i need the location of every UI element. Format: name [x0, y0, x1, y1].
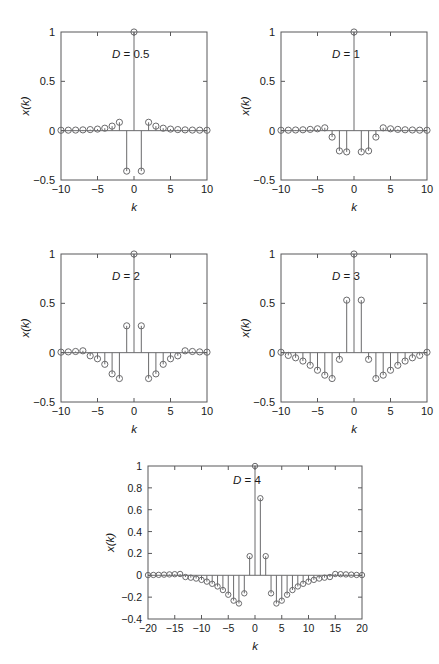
- panel-d05: −10−50510−0.500.51kx(k)D = 0.5: [0, 6, 219, 218]
- y-axis-title: x(k): [104, 533, 116, 553]
- plot-d1: −10−50510−0.500.51kx(k)D = 1: [220, 6, 439, 218]
- figure-root: −10−50510−0.500.51kx(k)D = 0.5 −10−50510…: [0, 0, 439, 664]
- y-tick-label: −0.5: [33, 174, 55, 186]
- x-tick-label: 10: [201, 183, 213, 195]
- x-axis-title: k: [131, 423, 138, 435]
- y-tick-label: 0: [136, 569, 142, 581]
- x-tick-label: 5: [387, 183, 393, 195]
- data-point-marker: [402, 127, 408, 133]
- x-tick-label: 10: [421, 183, 433, 195]
- y-tick-label: 0: [49, 125, 55, 137]
- plot-d2: −10−50510−0.500.51kx(k)D = 2: [0, 228, 219, 440]
- x-tick-label: 5: [167, 183, 173, 195]
- plot-annotation: D = 3: [332, 270, 360, 282]
- panel-d3: −10−50510−0.500.51kx(k)D = 3: [220, 228, 439, 440]
- plot-d3: −10−50510−0.500.51kx(k)D = 3: [220, 228, 439, 440]
- data-point-marker: [175, 126, 181, 132]
- plot-annotation: D = 2: [112, 270, 140, 282]
- y-tick-label: −0.5: [253, 174, 275, 186]
- y-tick-label: 1: [49, 248, 55, 260]
- y-axis-title: x(k): [19, 96, 31, 116]
- y-tick-label: 0.5: [260, 297, 275, 309]
- y-axis-title: x(k): [19, 318, 31, 338]
- x-tick-label: 5: [167, 405, 173, 417]
- x-tick-label: 5: [387, 405, 393, 417]
- x-tick-label: 10: [421, 405, 433, 417]
- x-tick-label: 0: [252, 622, 258, 634]
- y-tick-label: 1: [49, 26, 55, 38]
- y-tick-label: 1: [269, 26, 275, 38]
- x-tick-label: 0: [131, 405, 137, 417]
- x-tick-label: −5: [311, 405, 324, 417]
- data-point-marker: [300, 127, 306, 133]
- x-tick-label: 0: [131, 183, 137, 195]
- data-point-marker: [189, 127, 195, 133]
- y-tick-label: 0.5: [40, 75, 55, 87]
- x-tick-label: 15: [329, 622, 341, 634]
- x-tick-label: −5: [222, 622, 234, 634]
- y-axis-title: x(k): [239, 318, 251, 338]
- x-tick-label: 10: [303, 622, 315, 634]
- plot-annotation: D = 1: [332, 48, 360, 60]
- y-tick-label: −0.2: [121, 591, 142, 603]
- x-tick-label: −15: [166, 622, 184, 634]
- x-axis-title: k: [131, 201, 138, 213]
- panel-d4: −20−15−10−505101520−0.4−0.200.20.40.60.8…: [85, 448, 375, 662]
- data-point-marker: [197, 349, 203, 355]
- panel-d1: −10−50510−0.500.51kx(k)D = 1: [220, 6, 439, 218]
- x-axis-title: k: [252, 640, 259, 652]
- y-tick-label: 0.5: [40, 297, 55, 309]
- y-axis-title: x(k): [239, 96, 251, 116]
- y-tick-label: 0: [49, 347, 55, 359]
- y-tick-label: 0: [269, 125, 275, 137]
- plot-annotation: D = 0.5: [112, 48, 149, 60]
- data-point-marker: [65, 349, 71, 355]
- x-tick-label: −5: [311, 183, 324, 195]
- y-tick-label: 0: [269, 347, 275, 359]
- y-tick-label: 0.8: [127, 482, 142, 494]
- plot-d4: −20−15−10−505101520−0.4−0.200.20.40.60.8…: [85, 448, 375, 662]
- x-tick-label: 10: [201, 405, 213, 417]
- panel-d2: −10−50510−0.500.51kx(k)D = 2: [0, 228, 219, 440]
- y-tick-label: −0.4: [121, 613, 142, 625]
- x-tick-label: −5: [91, 183, 104, 195]
- y-tick-label: 0.4: [127, 526, 142, 538]
- x-tick-label: 0: [351, 183, 357, 195]
- x-tick-label: −10: [193, 622, 211, 634]
- x-tick-label: −5: [91, 405, 104, 417]
- data-point-marker: [73, 127, 79, 133]
- x-tick-label: 0: [351, 405, 357, 417]
- x-axis-title: k: [351, 201, 358, 213]
- y-tick-label: 1: [136, 460, 142, 472]
- y-tick-label: 0.5: [260, 75, 275, 87]
- data-point-marker: [87, 126, 93, 132]
- y-tick-label: 1: [269, 248, 275, 260]
- y-tick-label: −0.5: [33, 396, 55, 408]
- y-tick-label: 0.2: [127, 547, 142, 559]
- y-tick-label: 0.6: [127, 504, 142, 516]
- x-axis-title: k: [351, 423, 358, 435]
- x-tick-label: 5: [279, 622, 285, 634]
- x-tick-label: 20: [356, 622, 368, 634]
- plot-d05: −10−50510−0.500.51kx(k)D = 0.5: [0, 6, 219, 218]
- y-tick-label: −0.5: [253, 396, 275, 408]
- plot-annotation: D = 4: [233, 474, 261, 486]
